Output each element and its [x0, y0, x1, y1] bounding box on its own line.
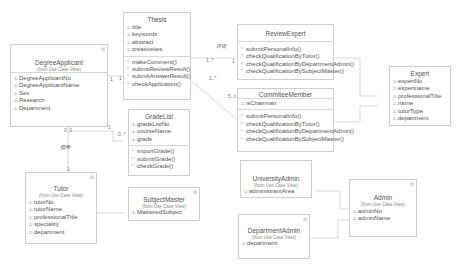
class-committee-member[interactable]: CommiteeMember ⚿isChairman °submitPerson…: [237, 88, 334, 152]
multiplicity-label: 1..*: [206, 57, 214, 63]
corner-marker-icon: ⊠: [303, 216, 307, 222]
operation-row[interactable]: °checkGrade(): [132, 163, 186, 170]
class-name: DegreeApplicant: [11, 45, 107, 66]
attribute-row[interactable]: ⚿speciality: [29, 221, 93, 228]
class-name: DepartmentAdmin: [239, 215, 309, 234]
class-tutor[interactable]: ⊠ Tutor (from Use Case View) ⚿tutorNo ⚿t…: [25, 172, 97, 244]
class-university-admin[interactable]: UniversityAdmin (from Use Case View) ⚿ad…: [240, 160, 312, 198]
attribute-row[interactable]: ⚿adminName: [353, 215, 413, 222]
attribute-row[interactable]: ⚿department: [29, 229, 93, 236]
operations-section: °importGrade() °submitGrade() °checkGrad…: [129, 145, 189, 172]
class-name: CommiteeMember: [238, 89, 333, 98]
attribute-row[interactable]: ⚿gradeListNo: [132, 121, 186, 128]
class-name: Tutor: [26, 173, 96, 192]
class-name: UniversityAdmin: [241, 161, 311, 182]
operation-row[interactable]: °checkQualificationBySubjectMaster(): [241, 68, 330, 75]
class-name: SubjectMaster: [129, 188, 199, 203]
attributes-section: ⚿MasteredSubject: [129, 209, 199, 218]
multiplicity-label: 1: [110, 76, 113, 82]
attribute-row[interactable]: ⚿creativeties: [127, 46, 187, 53]
operation-row[interactable]: °checkQualificationByDepartmentAdmin(): [241, 61, 330, 68]
operation-row[interactable]: °submitPersonalInfo(): [241, 113, 330, 120]
attributes-section: ⚿adminNo ⚿adminName: [350, 207, 416, 225]
class-subject-master[interactable]: ⊠ SubjectMaster (from Use Case View) ⚿Ma…: [128, 187, 200, 221]
multiplicity-label: 5..n: [228, 93, 236, 99]
attribute-row[interactable]: ⚿Research: [14, 97, 104, 104]
attribute-row[interactable]: ⚿name: [393, 100, 447, 107]
multiplicity-label: 0..*: [118, 131, 126, 137]
operation-row[interactable]: °importGrade(): [132, 148, 186, 155]
class-name: Thesis: [124, 13, 190, 23]
attribute-row[interactable]: ⚿abstract: [127, 39, 187, 46]
attribute-row[interactable]: ⚿department: [242, 240, 306, 247]
guide-association-label: 指导: [60, 143, 70, 150]
attribute-row[interactable]: ⚿title: [127, 24, 187, 31]
attributes-section: ⚿isChairman: [238, 98, 333, 109]
attribute-row[interactable]: ⚿DegreeApplicantName: [14, 82, 104, 89]
class-review-expert[interactable]: ReviewExpert °submitPersonalInfo() °chec…: [237, 24, 334, 80]
operation-row[interactable]: °checkQualificationByTutor(): [241, 53, 330, 60]
attribute-row[interactable]: ⚿DegreeApplicantNo: [14, 75, 104, 82]
operations-section: °makeComment() °submitReviewResult() °su…: [124, 56, 190, 91]
attribute-row[interactable]: ⚿Department: [14, 105, 104, 112]
class-thesis[interactable]: Thesis ⚿title ⚿keywords ⚿abstract ⚿creat…: [123, 12, 191, 100]
attributes-section: ⚿title ⚿keywords ⚿abstract ⚿creativeties: [124, 23, 190, 56]
class-name: ReviewExpert: [238, 25, 333, 37]
attributes-section: ⚿expertNo ⚿expertname ⚿professionalTitle…: [390, 77, 450, 124]
operation-row[interactable]: °checkQualificationBySubjectMaster(): [241, 136, 330, 143]
review-association-label: 评阅: [216, 42, 226, 49]
attributes-section: ⚿tutorNo ⚿tutorName ⚿professionalTitle ⚿…: [26, 198, 96, 238]
class-department-admin[interactable]: ⊠ DepartmentAdmin (from Use Case View) ⚿…: [238, 214, 310, 259]
attributes-section: ⚿administrantArea: [241, 188, 311, 197]
attribute-row[interactable]: ⚿Sex: [14, 90, 104, 97]
class-expert[interactable]: Expert ⚿expertNo ⚿expertname ⚿profession…: [389, 66, 451, 126]
class-name: Admin: [350, 180, 416, 201]
class-name: GradeList: [129, 110, 189, 120]
operation-row[interactable]: °submitPersonalInfo(): [241, 46, 330, 53]
class-grade-list[interactable]: GradeList ⚿gradeListNo ⚿courseName ⚿grad…: [128, 109, 190, 176]
corner-marker-icon: ⊠: [410, 181, 414, 187]
operation-row[interactable]: °checkQualificationByTutor(): [241, 121, 330, 128]
multiplicity-label: 1: [119, 75, 122, 81]
attribute-row[interactable]: ⚿professionalTitle: [393, 93, 447, 100]
attribute-row[interactable]: ⚿expertNo: [393, 78, 447, 85]
operation-row[interactable]: °submitReviewResult(): [127, 66, 187, 73]
operations-section: °submitPersonalInfo() °checkQualificatio…: [238, 109, 333, 145]
operation-row[interactable]: °checkApplication(): [127, 81, 187, 88]
multiplicity-label: 0..1: [64, 127, 72, 133]
attributes-section: ⚿department: [239, 240, 309, 249]
class-admin[interactable]: ⊠ Admin (from Use Case View) ⚿adminNo ⚿a…: [349, 179, 417, 237]
multiplicity-label: 1..*: [209, 75, 217, 81]
attribute-row[interactable]: ⚿expertname: [393, 85, 447, 92]
operation-row[interactable]: °checkQualificationByDepartmentAdmin(): [241, 128, 330, 135]
attribute-row[interactable]: ⚿tutorType: [393, 108, 447, 115]
multiplicity-label: 1: [232, 58, 235, 64]
attribute-row[interactable]: ⚿keywords: [127, 31, 187, 38]
attributes-section: ⚿DegreeApplicantNo ⚿DegreeApplicantName …: [11, 72, 107, 114]
corner-marker-icon: ⊠: [193, 189, 197, 195]
attribute-row[interactable]: ⚿grade: [132, 136, 186, 143]
multiplicity-label: 1: [108, 124, 111, 130]
operation-row[interactable]: °makeComment(): [127, 59, 187, 66]
attributes-section: ⚿gradeListNo ⚿courseName ⚿grade: [129, 120, 189, 145]
attribute-row[interactable]: ⚿courseName: [132, 128, 186, 135]
class-degree-applicant[interactable]: ⊠ DegreeApplicant (from Use Case View) ⚿…: [10, 44, 108, 127]
class-name: Expert: [390, 67, 450, 77]
corner-marker-icon: ⊠: [101, 46, 105, 52]
operation-row[interactable]: °submitGrade(): [132, 156, 186, 163]
attribute-row[interactable]: ⚿MasteredSubject: [132, 209, 196, 216]
corner-marker-icon: ⊠: [90, 174, 94, 180]
attribute-row[interactable]: ⚿isChairman: [241, 100, 330, 107]
attribute-row[interactable]: ⚿adminNo: [353, 208, 413, 215]
attribute-row[interactable]: ⚿administrantArea: [244, 188, 308, 195]
attribute-row[interactable]: ⚿tutorNo: [29, 199, 93, 206]
operations-section: °submitPersonalInfo() °checkQualificatio…: [238, 41, 333, 78]
attribute-row[interactable]: ⚿department: [393, 115, 447, 122]
attribute-row[interactable]: ⚿tutorName: [29, 206, 93, 213]
operation-row[interactable]: °submitAnswerResult(): [127, 73, 187, 80]
multiplicity-label: 1: [67, 166, 70, 172]
attribute-row[interactable]: ⚿professionalTitle: [29, 214, 93, 221]
